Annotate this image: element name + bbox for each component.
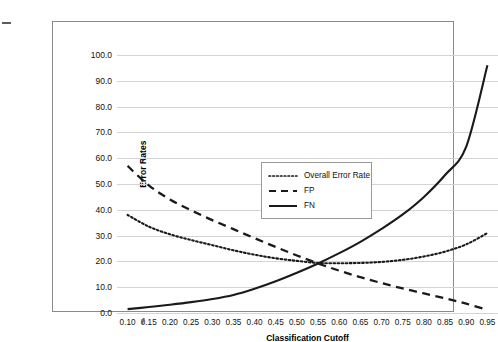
- x-axis-title: Classification Cutoff: [117, 333, 498, 342]
- legend-label: FN: [304, 201, 315, 210]
- plot-area: Error Rates 0.010.020.030.040.050.060.07…: [117, 55, 498, 313]
- x-tick-label: 0.10: [120, 318, 136, 327]
- y-tick-label: 40.0: [95, 205, 112, 215]
- x-tick-label: 0.75: [395, 318, 411, 327]
- x-tick-label: 0.65: [352, 318, 368, 327]
- x-tick-label: 0.40: [247, 318, 263, 327]
- y-tick-label: 50.0: [95, 179, 112, 189]
- x-tick-label: 0.25: [183, 318, 199, 327]
- x-tick-label: 0.30: [204, 318, 220, 327]
- legend-label: Overall Error Rate: [304, 171, 370, 180]
- legend-item-overall-error-rate: Overall Error Rate: [268, 168, 365, 183]
- y-tick-label: 100.0: [91, 50, 112, 60]
- chart-legend: Overall Error Rate FP FN: [261, 162, 372, 219]
- x-tick-label: 0.35: [225, 318, 241, 327]
- chart-frame: Error Rates 0.010.020.030.040.050.060.07…: [52, 21, 454, 312]
- y-tick-label: 10.0: [95, 282, 112, 292]
- y-tick-label: 80.0: [95, 102, 112, 112]
- legend-key-dotted-icon: [268, 171, 298, 181]
- x-tick-label: 0.80: [416, 318, 432, 327]
- y-tick-label: 0.0: [100, 308, 112, 318]
- legend-label: FP: [304, 186, 314, 195]
- legend-key-dashed-icon: [268, 186, 298, 196]
- legend-item-fp: FP: [268, 183, 365, 198]
- x-tick-label: 0.70: [374, 318, 390, 327]
- x-tick-label: 0.95: [479, 318, 495, 327]
- y-tick-label: 30.0: [95, 231, 112, 241]
- gridline: [117, 313, 498, 314]
- x-tick-label: 0.45: [268, 318, 284, 327]
- x-tick-label: 0.60: [331, 318, 347, 327]
- x-tick-label: 0.85: [437, 318, 453, 327]
- x-tick-label: 0.90: [458, 318, 474, 327]
- y-tick-label: 20.0: [95, 256, 112, 266]
- legend-key-solid-icon: [268, 201, 298, 211]
- series-line-overall-error-rate: [128, 215, 488, 263]
- y-tick-label: 60.0: [95, 153, 112, 163]
- y-tick-label: 90.0: [95, 76, 112, 86]
- x-tick-label: 0.55: [310, 318, 326, 327]
- x-tick-label: 0.20: [162, 318, 178, 327]
- y-tick-label: 70.0: [95, 127, 112, 137]
- legend-item-fn: FN: [268, 198, 365, 213]
- x-tick-label: 0.50: [289, 318, 305, 327]
- stray-left-mark: [2, 22, 11, 24]
